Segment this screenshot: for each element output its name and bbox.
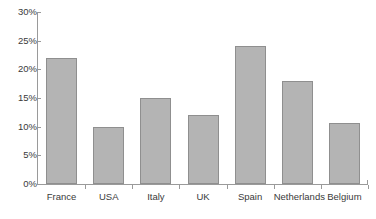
y-tick-label: 5%: [5, 150, 37, 160]
y-tick-6: 30%: [0, 7, 37, 17]
x-tick-label-netherlands: Netherlands: [274, 191, 321, 203]
y-tick-mark: [37, 155, 41, 156]
bar-uk: [188, 115, 219, 184]
x-tick-label-belgium: Belgium: [321, 191, 368, 203]
x-tick-label-spain: Spain: [227, 191, 274, 203]
y-tick-5: 25%: [0, 36, 37, 46]
x-tick-mark: [179, 185, 180, 189]
x-tick-mark: [132, 185, 133, 189]
plot-area: [38, 12, 368, 184]
y-tick-label: 0%: [5, 179, 37, 189]
y-tick-1: 5%: [0, 150, 37, 160]
x-tick-label-france: France: [38, 191, 85, 203]
y-tick-label: 25%: [5, 36, 37, 46]
y-tick-mark: [37, 41, 41, 42]
x-tick-label-uk: UK: [179, 191, 226, 203]
x-tick-mark: [227, 185, 228, 189]
y-tick-mark: [37, 12, 41, 13]
y-tick-mark: [37, 127, 41, 128]
y-tick-mark: [37, 98, 41, 99]
y-tick-3: 15%: [0, 93, 37, 103]
bar-italy: [140, 98, 171, 184]
y-tick-label: 20%: [5, 64, 37, 74]
y-tick-mark: [37, 184, 41, 185]
x-tick-mark: [321, 185, 322, 189]
y-tick-label: 15%: [5, 93, 37, 103]
bar-france: [46, 58, 77, 184]
x-tick-label-italy: Italy: [132, 191, 179, 203]
x-tick-mark: [274, 185, 275, 189]
bar-spain: [235, 46, 266, 184]
bar-netherlands: [282, 81, 313, 184]
y-tick-mark: [37, 69, 41, 70]
y-tick-0: 0%: [0, 179, 37, 189]
x-tick-label-usa: USA: [85, 191, 132, 203]
y-tick-2: 10%: [0, 122, 37, 132]
x-axis-line: [37, 184, 368, 185]
bar-belgium: [329, 123, 360, 184]
y-tick-4: 20%: [0, 64, 37, 74]
x-tick-mark: [85, 185, 86, 189]
y-tick-label: 30%: [5, 7, 37, 17]
x-tick-mark: [368, 185, 369, 189]
bar-chart: 0%5%10%15%20%25%30%FranceUSAItalyUKSpain…: [0, 0, 376, 219]
y-tick-label: 10%: [5, 122, 37, 132]
bar-usa: [93, 127, 124, 184]
